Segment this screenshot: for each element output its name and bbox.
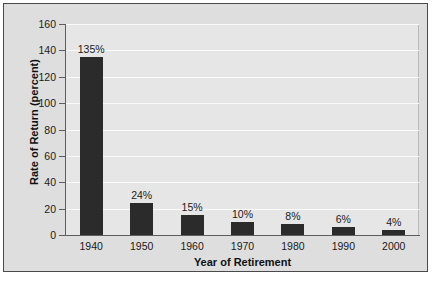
gridline xyxy=(66,77,419,78)
gridline xyxy=(66,156,419,157)
bar-value-label: 135% xyxy=(61,44,121,55)
y-axis-tick-label-wrap: 0 xyxy=(4,230,56,240)
x-axis-line xyxy=(65,235,420,236)
gridline xyxy=(66,24,419,25)
y-axis-tick xyxy=(59,130,66,131)
bar xyxy=(181,215,204,235)
y-axis-tick xyxy=(59,182,66,183)
x-axis-tick-label: 2000 xyxy=(364,241,424,252)
bar xyxy=(332,227,355,235)
bar xyxy=(231,222,254,235)
y-axis-tick-label: 0 xyxy=(10,230,56,240)
bar-value-label: 24% xyxy=(112,190,172,201)
x-axis-title: Year of Retirement xyxy=(66,256,419,268)
y-axis-tick xyxy=(59,77,66,78)
bar xyxy=(80,57,103,235)
bar-value-label: 4% xyxy=(364,217,424,228)
gridline xyxy=(66,130,419,131)
y-axis-tick xyxy=(59,24,66,25)
y-axis-tick xyxy=(59,235,66,236)
y-axis-tick xyxy=(59,103,66,104)
gridline xyxy=(66,182,419,183)
y-axis-tick xyxy=(59,156,66,157)
bar xyxy=(130,203,153,235)
plot-area xyxy=(66,24,419,235)
y-axis-title: Rate of Return (percent) xyxy=(28,22,40,222)
y-axis-tick xyxy=(59,209,66,210)
chart-figure: 020406080100120140160 194019501960197019… xyxy=(3,3,428,272)
gridline xyxy=(66,103,419,104)
bar xyxy=(281,224,304,235)
